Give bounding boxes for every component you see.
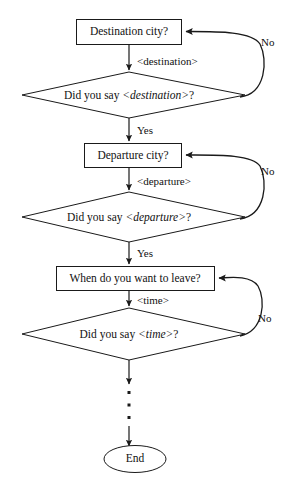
- edge-no-loop-time: [219, 277, 262, 336]
- confirm-time-suffix: ?: [173, 327, 178, 339]
- node-end-label: End: [126, 452, 145, 464]
- node-confirm-departure-label: Did you say <departure>?: [67, 210, 191, 223]
- flowchart-page: Destination city? <destination> Did you …: [0, 0, 298, 493]
- edge-label-no-departure: No: [261, 165, 275, 177]
- node-confirm-time-label: Did you say <time>?: [80, 327, 179, 340]
- flowchart-canvas: Destination city? <destination> Did you …: [0, 0, 298, 493]
- node-prompt-departure-label: Departure city?: [97, 149, 168, 162]
- continuation-dot-1: [128, 391, 131, 394]
- confirm-time-variable: <time>: [138, 327, 173, 339]
- edge-label-time-slot: <time>: [137, 294, 169, 306]
- node-confirm-destination-label: Did you say <destination>?: [64, 88, 194, 101]
- edge-label-destination-slot: <destination>: [137, 55, 198, 67]
- edge-label-no-time: No: [258, 312, 272, 324]
- confirm-departure-variable: <departure>: [125, 210, 185, 223]
- edge-label-yes-departure: Yes: [137, 247, 153, 259]
- node-prompt-destination-label: Destination city?: [90, 25, 168, 38]
- continuation-dot-2: [128, 404, 131, 407]
- confirm-time-prefix: Did you say: [80, 327, 138, 340]
- edge-label-no-destination: No: [261, 36, 275, 48]
- edge-label-departure-slot: <departure>: [137, 175, 191, 187]
- confirm-destination-prefix: Did you say: [64, 88, 122, 101]
- confirm-departure-prefix: Did you say: [67, 210, 125, 223]
- confirm-destination-variable: <destination>: [122, 88, 189, 100]
- confirm-destination-suffix: ?: [189, 88, 194, 100]
- continuation-dot-3: [128, 416, 131, 419]
- edge-label-yes-destination: Yes: [137, 124, 153, 136]
- node-prompt-time-label: When do you want to leave?: [69, 272, 200, 285]
- confirm-departure-suffix: ?: [186, 210, 191, 222]
